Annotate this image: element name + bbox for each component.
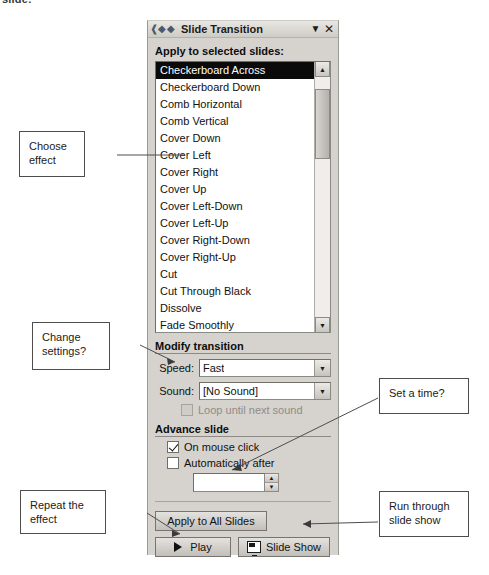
transition-effects-listbox[interactable]: Checkerboard Across Checkerboard Down Co… xyxy=(155,61,331,333)
list-item[interactable]: Cut Through Black xyxy=(156,283,314,300)
nav-back-icon[interactable]: ❰◆ xyxy=(151,23,164,36)
callout-run-slide-show-text: Run through slide show xyxy=(389,500,450,526)
speed-label: Speed: xyxy=(155,362,199,374)
chevron-down-icon[interactable]: ▼ xyxy=(314,360,330,376)
modify-transition-heading: Modify transition xyxy=(155,340,331,354)
callout-set-a-time: Set a time? xyxy=(379,378,469,414)
list-item[interactable]: Cover Right-Up xyxy=(156,249,314,266)
advance-time-input[interactable] xyxy=(193,473,265,492)
play-triangle-icon xyxy=(174,542,182,552)
automatically-after-row[interactable]: Automatically after xyxy=(155,457,331,469)
list-item[interactable]: Fade Smoothly xyxy=(156,317,314,332)
play-button-label: Play xyxy=(190,541,211,553)
sound-label: Sound: xyxy=(155,385,199,397)
list-item[interactable]: Cover Right xyxy=(156,164,314,181)
list-item[interactable]: Checkerboard Down xyxy=(156,79,314,96)
screenshot-root: slide: Choose effect Change settings? Se… xyxy=(0,0,489,575)
list-item[interactable]: Dissolve xyxy=(156,300,314,317)
spinner-buttons[interactable]: ▲ ▼ xyxy=(265,473,279,492)
sound-dropdown[interactable]: [No Sound] ▼ xyxy=(199,382,331,400)
callout-choose-effect-text: Choose effect xyxy=(29,140,67,166)
callout-repeat-effect: Repeat the effect xyxy=(20,490,106,534)
chevron-down-icon[interactable]: ▼ xyxy=(314,383,330,399)
speed-dropdown[interactable]: Fast ▼ xyxy=(199,359,331,377)
list-item[interactable]: Cover Left-Up xyxy=(156,215,314,232)
task-pane-title: Slide Transition xyxy=(181,23,263,35)
list-item[interactable]: Cut xyxy=(156,266,314,283)
playback-button-bar: Play Slide Show xyxy=(155,537,331,557)
sound-row: Sound: [No Sound] ▼ xyxy=(155,382,331,400)
list-item[interactable]: Cover Down xyxy=(156,130,314,147)
apply-to-selected-slides-heading: Apply to selected slides: xyxy=(155,45,331,57)
automatically-after-checkbox[interactable] xyxy=(167,457,179,469)
transition-effects-list[interactable]: Checkerboard Across Checkerboard Down Co… xyxy=(156,62,314,332)
scrollbar-thumb[interactable] xyxy=(315,89,330,159)
slide-show-button[interactable]: Slide Show xyxy=(238,537,330,557)
list-item[interactable]: Cover Up xyxy=(156,181,314,198)
advance-slide-heading: Advance slide xyxy=(155,423,331,437)
task-pane-close-icon[interactable]: ✕ xyxy=(322,23,335,36)
apply-to-all-slides-button[interactable]: Apply to All Slides xyxy=(155,511,267,531)
callout-change-settings-text: Change settings? xyxy=(42,331,86,357)
list-item[interactable]: Comb Horizontal xyxy=(156,96,314,113)
list-item[interactable]: Cover Left-Down xyxy=(156,198,314,215)
callout-choose-effect: Choose effect xyxy=(19,131,85,177)
callout-repeat-effect-text: Repeat the effect xyxy=(30,499,84,525)
list-item[interactable]: Cover Right-Down xyxy=(156,232,314,249)
on-mouse-click-row[interactable]: On mouse click xyxy=(155,441,331,453)
on-mouse-click-label: On mouse click xyxy=(184,441,259,453)
callout-run-slide-show: Run through slide show xyxy=(379,491,469,537)
speed-value: Fast xyxy=(200,362,224,374)
callout-set-a-time-text: Set a time? xyxy=(389,387,445,399)
scroll-up-icon[interactable]: ▲ xyxy=(315,62,330,77)
projector-screen-icon xyxy=(247,541,261,553)
scrollbar-track[interactable] xyxy=(315,77,330,317)
cropped-text-fragment: slide: xyxy=(2,0,48,3)
spinner-down-icon[interactable]: ▼ xyxy=(265,482,278,491)
loop-until-next-sound-row[interactable]: Loop until next sound xyxy=(155,404,331,416)
slide-show-button-label: Slide Show xyxy=(266,541,321,553)
play-button[interactable]: Play xyxy=(155,537,231,557)
list-item[interactable]: Checkerboard Across xyxy=(156,62,314,79)
loop-until-next-sound-label: Loop until next sound xyxy=(198,404,303,416)
list-vertical-scrollbar[interactable]: ▲ ▼ xyxy=(314,62,330,332)
on-mouse-click-checkbox[interactable] xyxy=(167,441,179,453)
nav-forward-icon[interactable]: ◆ xyxy=(164,23,177,36)
task-pane-title-bar: ❰◆ ◆ Slide Transition ▼ ✕ xyxy=(148,21,338,38)
advance-time-spinner[interactable]: ▲ ▼ xyxy=(193,473,279,492)
automatically-after-label: Automatically after xyxy=(184,457,274,469)
list-item[interactable]: Comb Vertical xyxy=(156,113,314,130)
spinner-up-icon[interactable]: ▲ xyxy=(265,474,278,482)
callout-change-settings: Change settings? xyxy=(32,322,110,370)
slide-transition-task-pane: ❰◆ ◆ Slide Transition ▼ ✕ Apply to selec… xyxy=(147,20,339,555)
task-pane-menu-icon[interactable]: ▼ xyxy=(309,23,322,36)
sound-value: [No Sound] xyxy=(200,385,258,397)
loop-until-next-sound-checkbox[interactable] xyxy=(181,404,193,416)
scroll-down-icon[interactable]: ▼ xyxy=(315,317,330,332)
speed-row: Speed: Fast ▼ xyxy=(155,359,331,377)
divider xyxy=(155,501,331,502)
list-item[interactable]: Cover Left xyxy=(156,147,314,164)
